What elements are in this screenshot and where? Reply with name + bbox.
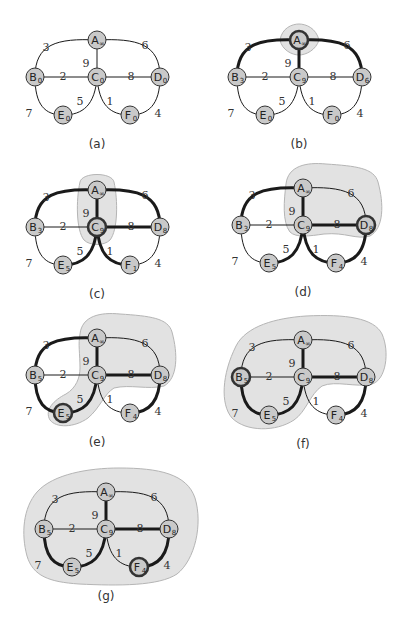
node-name: A <box>91 184 99 197</box>
node-distance: 8 <box>369 377 373 385</box>
node-e: E5 <box>54 404 72 422</box>
node-a: A∞ <box>294 179 312 197</box>
edge-weight-ac: 9 <box>285 57 292 70</box>
edge-weight-ad: 6 <box>348 339 355 352</box>
panel-label: (f) <box>296 437 310 451</box>
edge-weight-ab: 3 <box>43 41 50 54</box>
node-d: D8 <box>151 218 169 236</box>
edge-weight-cd: 8 <box>330 70 337 83</box>
edge-weight-be: 7 <box>26 405 33 418</box>
node-name: A <box>293 34 301 47</box>
node-name: E <box>67 561 74 574</box>
node-b: B5 <box>35 520 53 538</box>
node-distance: ∞ <box>99 338 105 346</box>
node-name: F <box>125 109 131 122</box>
edge-weight-be: 7 <box>26 257 33 270</box>
node-f: F4 <box>327 406 345 424</box>
panel-label: (c) <box>89 287 105 301</box>
node-name: E <box>260 109 267 122</box>
edge-weight-df: 4 <box>155 405 162 418</box>
node-distance: 4 <box>339 415 344 423</box>
node-name: C <box>100 523 108 536</box>
node-distance: 0 <box>335 115 339 123</box>
node-name: D <box>154 71 162 84</box>
node-e: E0 <box>256 106 274 124</box>
edge-weight-ad: 6 <box>151 491 158 504</box>
node-a: A∞ <box>88 181 106 199</box>
graph-panel-c: 369285174A∞B3C9D8E5F1(c) <box>26 175 170 302</box>
node-distance: 4 <box>133 413 138 421</box>
node-name: C <box>91 71 99 84</box>
node-distance: 5 <box>66 265 70 273</box>
edge-weight-ad: 6 <box>142 189 149 202</box>
node-name: B <box>38 523 46 536</box>
node-name: A <box>297 334 305 347</box>
edge-weight-bc: 2 <box>266 218 273 231</box>
edge-weight-ce: 5 <box>86 547 93 560</box>
panel-label: (a) <box>89 137 106 151</box>
node-distance: 0 <box>38 77 42 85</box>
node-name: F <box>125 407 131 420</box>
node-e: E0 <box>54 106 72 124</box>
node-name: C <box>91 221 99 234</box>
node-distance: 0 <box>268 115 272 123</box>
node-name: D <box>154 369 162 382</box>
node-e: E5 <box>260 406 278 424</box>
node-distance: 4 <box>339 263 344 271</box>
node-name: C <box>297 371 305 384</box>
node-distance: 3 <box>38 227 42 235</box>
edge-weight-df: 4 <box>357 107 364 120</box>
node-distance: 5 <box>244 377 248 385</box>
node-name: D <box>163 523 171 536</box>
edge-weight-cf: 1 <box>309 95 316 108</box>
node-distance: ∞ <box>99 40 105 48</box>
node-name: F <box>331 409 337 422</box>
node-distance: 9 <box>109 529 113 537</box>
node-c: C9 <box>97 520 115 538</box>
node-distance: 8 <box>163 375 167 383</box>
node-name: B <box>235 371 243 384</box>
node-distance: 5 <box>47 529 51 537</box>
node-distance: 1 <box>133 265 137 273</box>
node-d: D8 <box>160 520 178 538</box>
node-a: A∞ <box>290 31 308 49</box>
node-name: A <box>91 34 99 47</box>
node-distance: 0 <box>66 115 70 123</box>
node-a: A∞ <box>88 329 106 347</box>
edge-weight-ac: 9 <box>289 205 296 218</box>
edge-weight-ac: 9 <box>289 357 296 370</box>
edge-weight-ce: 5 <box>279 95 286 108</box>
node-f: F4 <box>130 558 148 576</box>
node-a: A∞ <box>294 331 312 349</box>
node-e: E5 <box>54 256 72 274</box>
edge-weight-be: 7 <box>35 559 42 572</box>
panel-label: (e) <box>89 435 106 449</box>
node-distance: 6 <box>365 77 370 85</box>
node-d: D8 <box>151 366 169 384</box>
edge-weight-be: 7 <box>232 255 239 268</box>
node-c: C9 <box>290 68 308 86</box>
node-distance: 5 <box>38 375 42 383</box>
node-f: F0 <box>323 106 341 124</box>
edge-weight-cd: 8 <box>137 522 144 535</box>
graph-panel-b: 369285174A∞B3C9D6E0F0(b) <box>228 24 372 151</box>
node-name: A <box>100 486 108 499</box>
node-name: F <box>125 259 131 272</box>
edge-weight-cd: 8 <box>334 370 341 383</box>
edge-weight-cf: 1 <box>107 393 114 406</box>
edge-weight-ad: 6 <box>344 39 351 52</box>
edge-weight-ad: 6 <box>142 337 149 350</box>
node-distance: 9 <box>100 227 104 235</box>
node-e: E5 <box>63 558 81 576</box>
edge-weight-cd: 8 <box>334 218 341 231</box>
node-name: F <box>134 561 140 574</box>
edge-weight-ac: 9 <box>92 509 99 522</box>
node-distance: ∞ <box>305 188 311 196</box>
edge-weight-df: 4 <box>164 559 171 572</box>
node-distance: 8 <box>369 225 373 233</box>
node-c: C9 <box>88 366 106 384</box>
node-c: C0 <box>88 68 106 86</box>
edge-weight-ac: 9 <box>83 57 90 70</box>
node-distance: 9 <box>306 377 310 385</box>
edge-weight-bc: 2 <box>60 70 67 83</box>
